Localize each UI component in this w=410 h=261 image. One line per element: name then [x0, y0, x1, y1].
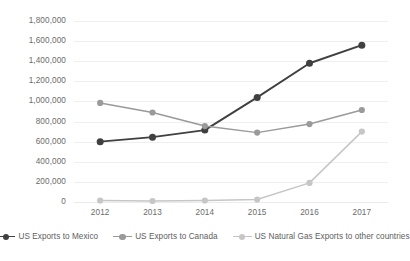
data-point — [254, 94, 261, 101]
x-axis-tick-label: 2015 — [233, 208, 281, 217]
y-axis-tick-label: 1,200,000 — [0, 77, 66, 85]
legend-marker-icon — [113, 232, 132, 241]
legend-label: US Exports to Canada — [135, 232, 217, 241]
data-point — [97, 100, 103, 106]
x-axis-tick-label: 2014 — [181, 208, 229, 217]
data-point — [149, 109, 155, 115]
legend-label: US Exports to Mexico — [18, 232, 98, 241]
legend-item[interactable]: US Natural Gas Exports to other countrie… — [233, 232, 410, 241]
plot-area — [74, 21, 388, 202]
series-line — [100, 45, 362, 142]
data-point — [306, 60, 313, 67]
x-axis-tick-label: 2013 — [129, 208, 177, 217]
data-point — [306, 121, 312, 127]
data-point — [149, 134, 156, 141]
data-point — [254, 130, 260, 136]
chart-legend: US Exports to MexicoUS Exports to Canada… — [0, 232, 406, 241]
gridline — [74, 202, 388, 203]
data-point — [97, 197, 103, 203]
data-point — [358, 42, 365, 49]
data-point — [359, 107, 365, 113]
legend-label: US Natural Gas Exports to other countrie… — [255, 232, 410, 241]
data-point — [254, 196, 260, 202]
data-point — [149, 198, 155, 204]
x-axis-tick-label: 2016 — [286, 208, 334, 217]
x-axis-tick-label: 2017 — [338, 208, 386, 217]
y-axis-tick-label: 1,000,000 — [0, 97, 66, 105]
legend-marker-icon — [233, 232, 252, 241]
y-axis-tick-label: 800,000 — [0, 118, 66, 126]
data-point — [202, 197, 208, 203]
y-axis-tick-label: 400,000 — [0, 158, 66, 166]
data-point — [97, 138, 104, 145]
data-point — [359, 129, 365, 135]
y-axis-tick-label: 0 — [0, 198, 66, 206]
x-axis-tick-label: 2012 — [76, 208, 124, 217]
y-axis-tick-label: 1,400,000 — [0, 57, 66, 65]
data-point — [202, 123, 208, 129]
y-axis-tick-label: 200,000 — [0, 178, 66, 186]
series-line — [100, 103, 362, 133]
series-3 — [97, 129, 365, 205]
data-point — [306, 180, 312, 186]
y-axis-tick-label: 1,800,000 — [0, 17, 66, 25]
legend-item[interactable]: US Exports to Mexico — [0, 232, 98, 241]
legend-marker-icon — [0, 232, 15, 241]
series-2 — [97, 100, 365, 136]
series-line — [100, 132, 362, 201]
y-axis-tick-label: 1,600,000 — [0, 37, 66, 45]
series-layer — [74, 21, 388, 202]
y-axis-tick-label: 600,000 — [0, 138, 66, 146]
legend-item[interactable]: US Exports to Canada — [113, 232, 217, 241]
